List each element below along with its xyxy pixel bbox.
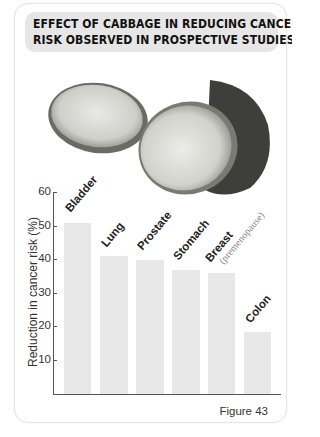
tick-10 <box>53 360 57 361</box>
tick-label-60: 60 <box>27 185 51 197</box>
chart-title: EFFECT OF CABBAGE IN REDUCING CANCER RIS… <box>33 16 244 48</box>
bar-lung <box>100 256 128 394</box>
cabbage-photo <box>40 70 280 195</box>
bar-prostate <box>136 260 164 394</box>
bar-breast <box>208 273 235 394</box>
x-axis <box>53 394 281 395</box>
tick-60 <box>53 192 57 193</box>
tick-30 <box>53 293 57 294</box>
tick-40 <box>53 259 57 260</box>
figure-caption: Figure 43 <box>219 405 268 417</box>
bar-colon <box>244 332 271 394</box>
bar-bladder <box>64 223 91 394</box>
title-line-2: RISK OBSERVED IN PROSPECTIVE STUDIES <box>33 32 244 48</box>
tick-50 <box>53 226 57 227</box>
tick-20 <box>53 326 57 327</box>
bar-stomach <box>172 270 200 394</box>
y-axis-label: Reduction in cancer risk (%) <box>26 217 40 367</box>
title-line-1: EFFECT OF CABBAGE IN REDUCING CANCER <box>33 16 244 32</box>
